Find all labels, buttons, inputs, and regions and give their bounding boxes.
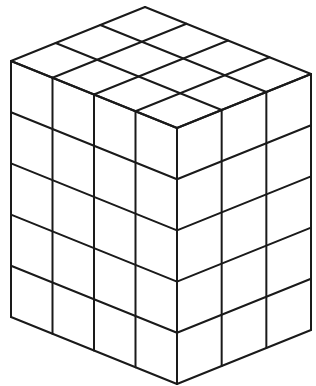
right-face-horizontal-line bbox=[177, 279, 311, 333]
cube-diagram bbox=[0, 0, 316, 386]
right-face-horizontal-line bbox=[177, 125, 311, 179]
right-face-horizontal-line bbox=[177, 330, 311, 384]
cube-block-drawing bbox=[0, 0, 316, 386]
right-face-horizontal-line bbox=[177, 228, 311, 282]
right-face-horizontal-line bbox=[177, 176, 311, 230]
